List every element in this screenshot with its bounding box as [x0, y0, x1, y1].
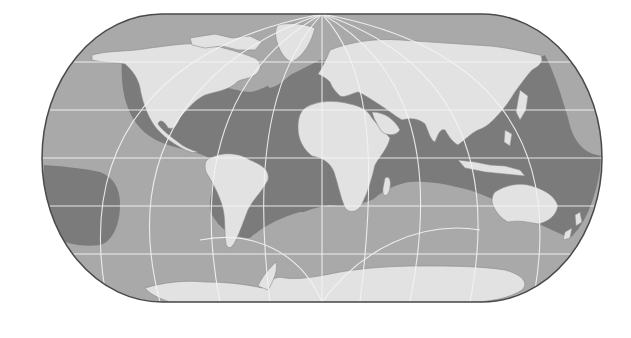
world-map	[0, 0, 631, 338]
